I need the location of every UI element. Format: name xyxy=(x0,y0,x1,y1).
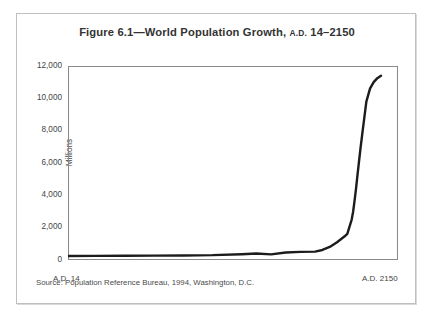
y-tick-label: 10,000 xyxy=(16,93,62,102)
y-tick-label: 4,000 xyxy=(16,190,62,199)
y-tick-label: 12,000 xyxy=(16,61,62,70)
population-growth-line xyxy=(68,76,381,256)
plot-area: Millions 02,0004,0006,0008,00010,00012,0… xyxy=(68,66,398,260)
chart-title: Figure 6.1—World Population Growth, A.D.… xyxy=(17,26,417,38)
y-tick-label: 8,000 xyxy=(16,125,62,134)
y-tick-label: 6,000 xyxy=(16,158,62,167)
chart-title-era: A.D. xyxy=(289,28,307,38)
x-tick-label-end: A.D. 2150 xyxy=(362,274,398,283)
chart-title-range: 14–2150 xyxy=(310,26,355,38)
y-tick-label: 2,000 xyxy=(16,222,62,231)
chart-title-main: Figure 6.1—World Population Growth, xyxy=(79,26,286,38)
figure-card: Figure 6.1—World Population Growth, A.D.… xyxy=(16,13,416,304)
plot-frame xyxy=(68,66,398,260)
y-tick-label: 0 xyxy=(16,255,62,264)
source-note: Source: Population Reference Bureau, 199… xyxy=(36,278,254,287)
